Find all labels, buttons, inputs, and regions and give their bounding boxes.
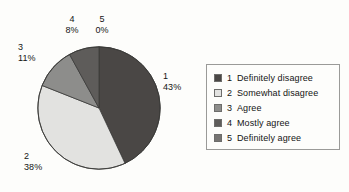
pie-slices [38,47,160,169]
legend-item-3[interactable]: 3 Agree [214,100,339,115]
legend-swatch-icon-2 [214,89,222,97]
pie-label-5-value: 0% [92,25,112,36]
legend-item-1[interactable]: 1 Definitely disagree [214,70,339,85]
pie-label-3-key: 3 [18,42,36,53]
legend-swatch-icon-4 [214,119,222,127]
legend-key-2: 2 [227,88,237,98]
pie-label-1-value: 43% [163,82,181,93]
pie-label-1-key: 1 [163,71,181,82]
legend-label-1: Definitely disagree [237,73,313,83]
legend-swatch-icon-3 [214,104,222,112]
legend-label-2: Somewhat disagree [237,88,318,98]
pie-svg [37,46,161,170]
legend-key-5: 5 [227,133,237,143]
legend-item-2[interactable]: 2 Somewhat disagree [214,85,339,100]
pie-label-2: 2 38% [24,151,42,173]
legend-label-3: Agree [237,103,262,113]
pie-label-3-value: 11% [18,53,36,64]
legend-item-5[interactable]: 5 Definitely agree [214,130,339,145]
pie-label-3: 3 11% [18,42,36,64]
pie-chart-figure: 1 43% 2 38% 3 11% 4 8% 5 0% 1 Definitely… [0,0,349,192]
legend-item-4[interactable]: 4 Mostly agree [214,115,339,130]
legend-label-4: Mostly agree [237,118,290,128]
pie-label-5: 5 0% [92,14,112,36]
pie-chart [37,46,161,170]
chart-legend: 1 Definitely disagree 2 Somewhat disagre… [206,64,340,150]
legend-label-5: Definitely agree [237,133,301,143]
legend-key-3: 3 [227,103,237,113]
pie-label-5-key: 5 [92,14,112,25]
pie-label-2-value: 38% [24,162,42,173]
pie-label-2-key: 2 [24,151,42,162]
pie-label-1: 1 43% [163,71,181,93]
legend-key-4: 4 [227,118,237,128]
legend-key-1: 1 [227,73,237,83]
pie-label-4-value: 8% [62,25,82,36]
pie-label-4: 4 8% [62,14,82,36]
pie-label-4-key: 4 [62,14,82,25]
legend-swatch-icon-5 [214,134,222,142]
legend-swatch-icon-1 [214,74,222,82]
